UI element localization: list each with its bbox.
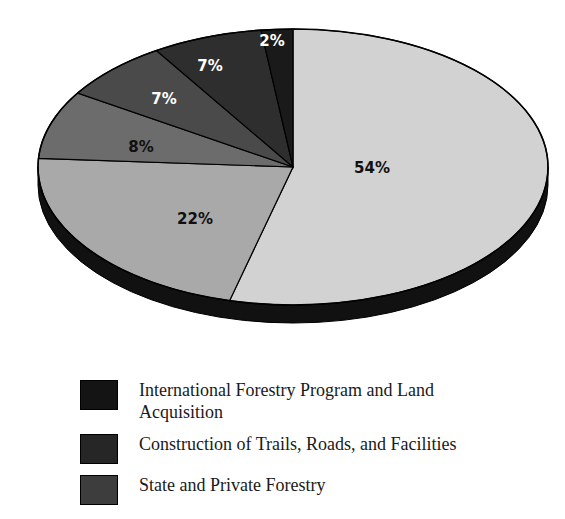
chart-legend: International Forestry Program and Land …: [80, 378, 550, 514]
legend-color-swatch: [80, 475, 118, 505]
pie-slice-value-label: 22%: [177, 210, 213, 228]
legend-item-label: State and Private Forestry: [139, 473, 325, 496]
legend-item[interactable]: International Forestry Program and Land …: [80, 378, 550, 423]
legend-item-label: International Forestry Program and Land …: [139, 378, 434, 423]
pie-chart-svg: 54%22%8%7%7%2%: [0, 0, 565, 345]
pie-slices: [38, 29, 548, 305]
legend-item-label: Construction of Trails, Roads, and Facil…: [139, 432, 457, 455]
pie-chart-graphic: 54%22%8%7%7%2%: [0, 0, 565, 345]
pie-slice-value-label: 7%: [197, 57, 222, 75]
pie-slice-value-label: 8%: [128, 138, 153, 156]
pie-slice-value-label: 7%: [151, 90, 176, 108]
pie-chart-figure: 54%22%8%7%7%2% International Forestry Pr…: [0, 0, 565, 519]
legend-color-swatch: [80, 380, 118, 410]
legend-color-swatch: [80, 434, 118, 464]
legend-item[interactable]: State and Private Forestry: [80, 473, 550, 505]
pie-slice-value-label: 2%: [259, 32, 284, 50]
legend-item[interactable]: Construction of Trails, Roads, and Facil…: [80, 432, 550, 464]
pie-slice-value-label: 54%: [354, 159, 390, 177]
